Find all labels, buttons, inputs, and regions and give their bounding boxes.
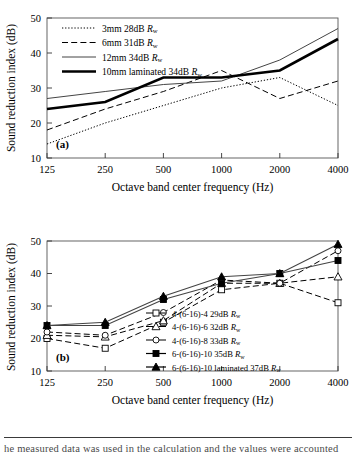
open-circle-marker — [277, 280, 283, 286]
footer-divider — [4, 437, 352, 438]
y-axis-title: Sound reduction index (dB) — [5, 24, 18, 152]
y-tick-label: 30 — [31, 83, 42, 94]
filled-square-marker — [219, 280, 225, 286]
plot-frame — [47, 18, 338, 158]
legend-label-4: 6-(6-16)-10 laminated 37dB Rw — [172, 363, 281, 374]
filled-square-marker — [153, 351, 159, 357]
legend-label-3: 6-(6-16)-10 35dB Rw — [172, 349, 245, 360]
x-tick-label: 1000 — [211, 164, 232, 175]
open-square-marker — [219, 287, 225, 293]
x-tick-label: 500 — [156, 377, 172, 388]
x-tick-label: 4000 — [328, 164, 349, 175]
y-tick-label: 30 — [31, 301, 42, 312]
legend-label-1: 4-(6-16)-6 32dB Rw — [172, 322, 241, 333]
open-circle-marker — [335, 248, 341, 254]
panel-letter: (a) — [56, 138, 69, 151]
open-circle-marker — [102, 332, 108, 338]
x-tick-label: 125 — [39, 377, 55, 388]
filled-square-marker — [335, 258, 341, 264]
open-square-marker — [102, 345, 108, 351]
x-axis-title: Octave band center frequency (Hz) — [112, 181, 274, 194]
series-line-1 — [47, 71, 338, 131]
y-tick-label: 20 — [31, 333, 42, 344]
legend-label-3: 10mm laminated 34dB Rw — [102, 67, 202, 78]
series-line-0 — [47, 78, 338, 145]
open-triangle-marker — [334, 273, 342, 280]
panel-letter: (b) — [56, 351, 70, 364]
chart-panel-b: 1020304050125250500100020004000Sound red… — [0, 225, 356, 430]
open-circle-marker — [44, 329, 50, 335]
x-tick-label: 250 — [97, 164, 113, 175]
caption-fragment: he measured data was used in the calcula… — [4, 441, 352, 454]
chart-panel-a: 1020304050125250500100020004000Sound red… — [0, 0, 356, 210]
open-circle-marker — [153, 337, 159, 343]
chart-a-svg: 1020304050125250500100020004000Sound red… — [0, 0, 356, 210]
x-tick-label: 1000 — [211, 377, 232, 388]
x-axis-title: Octave band center frequency (Hz) — [112, 394, 274, 407]
open-square-marker — [153, 310, 159, 316]
x-tick-label: 500 — [156, 164, 172, 175]
legend-label-2: 12mm 34dB Rw — [102, 53, 162, 64]
y-tick-label: 10 — [31, 153, 42, 164]
legend-label-0: 3mm 28dB Rw — [102, 24, 158, 35]
chart-b-svg: 1020304050125250500100020004000Sound red… — [0, 225, 356, 435]
x-tick-label: 2000 — [269, 377, 290, 388]
x-tick-label: 250 — [97, 377, 113, 388]
y-tick-label: 20 — [31, 118, 42, 129]
x-tick-label: 2000 — [269, 164, 290, 175]
legend-label-2: 4-(6-16)-8 33dB Rw — [172, 336, 241, 347]
y-tick-label: 10 — [31, 366, 42, 377]
y-tick-label: 50 — [31, 13, 42, 24]
legend-label-1: 6mm 31dB Rw — [102, 38, 158, 49]
open-square-marker — [335, 300, 341, 306]
x-tick-label: 4000 — [328, 377, 349, 388]
y-axis-title: Sound reduction index (dB) — [5, 243, 18, 371]
y-tick-label: 40 — [31, 268, 42, 279]
y-tick-label: 40 — [31, 48, 42, 59]
x-tick-label: 125 — [39, 164, 55, 175]
legend-label-0: 4-(6-16)-4 29dB Rw — [172, 309, 241, 320]
chart-legend: 3mm 28dB Rw6mm 31dB Rw12mm 34dB Rw10mm l… — [62, 24, 202, 78]
y-tick-label: 50 — [31, 236, 42, 247]
open-triangle-marker — [152, 323, 160, 330]
figure-container: 1020304050125250500100020004000Sound red… — [0, 0, 356, 460]
